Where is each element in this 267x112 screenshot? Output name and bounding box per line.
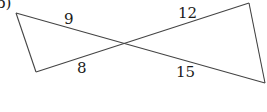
label-left-lower: 8 — [77, 59, 87, 77]
bowtie-diagram: b) 9 8 12 15 — [0, 0, 267, 112]
label-right-lower: 15 — [176, 63, 195, 81]
left-triangle-side — [16, 13, 36, 72]
label-left-upper: 9 — [64, 10, 74, 28]
label-right-upper: 12 — [178, 4, 197, 22]
right-triangle-side — [249, 3, 265, 83]
part-label: b) — [0, 0, 11, 12]
diagonal-segment-down — [16, 13, 265, 83]
